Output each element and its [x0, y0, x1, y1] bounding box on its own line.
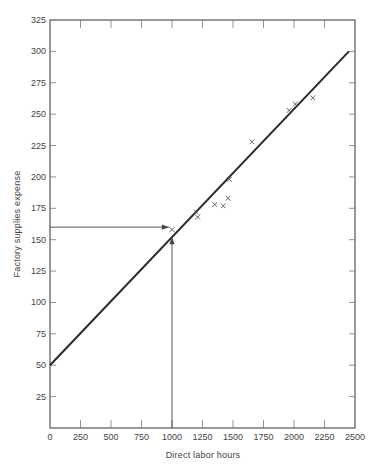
scatter-chart: 255075100125150175200225250275300325 025… — [0, 0, 378, 474]
x-tick-label: 2000 — [284, 432, 304, 442]
y-tick-label: 275 — [31, 78, 46, 88]
x-tick-label: 1500 — [223, 432, 243, 442]
x-tick-label: 750 — [134, 432, 149, 442]
x-axis-label: Direct labor hours — [166, 450, 241, 460]
y-tick-label: 325 — [31, 15, 46, 25]
x-marker-icon — [293, 102, 298, 107]
y-tick-label: 100 — [31, 297, 46, 307]
x-tick-label: 2500 — [345, 432, 365, 442]
x-marker-icon — [287, 108, 292, 113]
x-tick-label: 250 — [73, 432, 88, 442]
y-tick-label: 75 — [36, 329, 46, 339]
x-tick-label: 1000 — [162, 432, 182, 442]
x-tick-label: 1750 — [253, 432, 273, 442]
x-marker-icon — [250, 139, 255, 144]
fitted-line-layer — [50, 51, 349, 365]
y-tick-label: 25 — [36, 392, 46, 402]
x-marker-icon — [212, 202, 217, 207]
x-marker-icon — [170, 227, 175, 232]
x-tick-label: 1250 — [192, 432, 212, 442]
x-marker-icon — [221, 203, 226, 208]
y-tick-label: 175 — [31, 203, 46, 213]
y-tick-label: 225 — [31, 141, 46, 151]
x-marker-icon — [195, 215, 200, 220]
x-tick-label: 500 — [103, 432, 118, 442]
y-tick-label: 250 — [31, 109, 46, 119]
x-marker-icon — [311, 95, 316, 100]
y-tick-label: 300 — [31, 46, 46, 56]
arrowhead-icon — [162, 225, 169, 230]
y-axis-ticks: 255075100125150175200225250275300325 — [31, 15, 355, 402]
x-tick-label: 0 — [47, 432, 52, 442]
y-tick-label: 150 — [31, 235, 46, 245]
x-marker-icon — [226, 196, 231, 201]
x-axis-ticks: 02505007501000125015001750200022502500 — [47, 420, 365, 442]
y-tick-label: 200 — [31, 172, 46, 182]
y-tick-label: 125 — [31, 266, 46, 276]
regression-line — [50, 51, 349, 365]
x-tick-label: 2250 — [314, 432, 334, 442]
y-tick-label: 50 — [36, 360, 46, 370]
plot-frame — [50, 20, 355, 428]
y-axis-label: Factory supplies expense — [12, 171, 22, 278]
